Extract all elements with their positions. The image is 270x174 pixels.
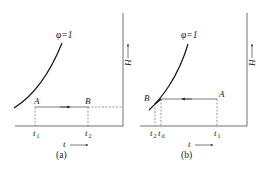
svg-text:2: 2 xyxy=(89,133,92,139)
panel-a-x-label: t xyxy=(63,139,66,149)
panel-b-point-a: A xyxy=(218,89,225,99)
svg-text:1: 1 xyxy=(218,133,221,139)
panel-b-tick-t2: t 2 xyxy=(150,128,157,139)
psychrometric-diagram: φ=1 A B t 1 t 2 t H (a) φ=1 xyxy=(0,0,270,174)
panel-b-tick-t1: t 1 xyxy=(214,128,221,139)
panel-b-curve-label: φ=1 xyxy=(181,30,197,40)
svg-text:2: 2 xyxy=(154,133,157,139)
panel-a-curve-label: φ=1 xyxy=(56,30,72,40)
panel-b-caption: (b) xyxy=(181,150,192,161)
panel-a-y-label: H xyxy=(123,59,133,67)
panel-a-tick-t2: t 2 xyxy=(85,128,92,139)
panel-b-x-label: t xyxy=(188,139,191,149)
panel-a-tick-t1: t 1 xyxy=(33,128,40,139)
panel-b-tick-td: t d xyxy=(158,128,165,139)
panel-b-saturation-curve xyxy=(149,44,188,110)
panel-b-point-b: B xyxy=(144,93,150,103)
panel-a: φ=1 A B t 1 t 2 t H (a) xyxy=(14,13,133,161)
panel-a-point-a: A xyxy=(33,96,40,106)
panel-b: φ=1 A B t 2 t d t 1 t H (b) xyxy=(140,13,257,161)
panel-a-point-b: B xyxy=(85,96,91,106)
panel-b-y-label: H xyxy=(247,59,257,67)
svg-text:d: d xyxy=(162,133,165,139)
panel-a-caption: (a) xyxy=(56,150,67,161)
svg-text:1: 1 xyxy=(37,133,40,139)
panel-b-condensation-segment xyxy=(155,99,161,104)
